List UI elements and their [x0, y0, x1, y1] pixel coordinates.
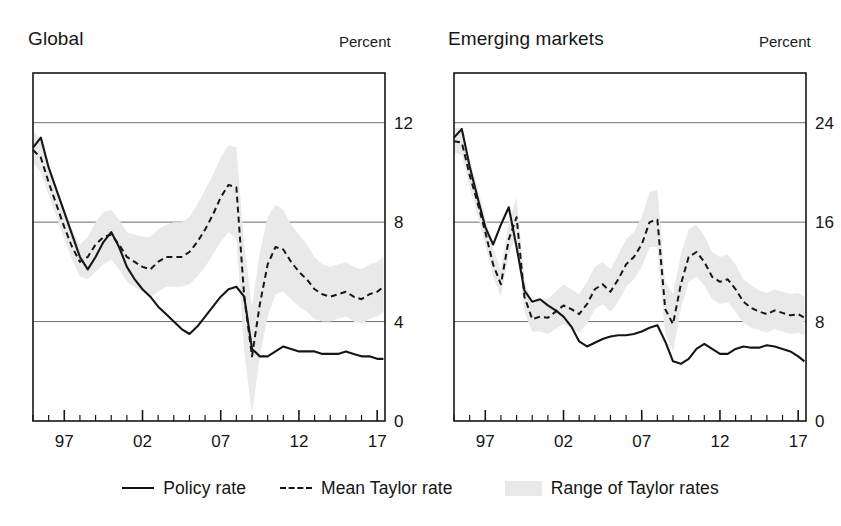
- x-tick-label: 97: [55, 432, 74, 451]
- y-tick-label: 12: [394, 114, 413, 133]
- y-tick-label: 0: [815, 412, 824, 431]
- x-axis-labels: 9702071217: [55, 432, 387, 451]
- legend-row: Policy rateMean Taylor rateRange of Tayl…: [0, 468, 841, 508]
- dashed-line-icon: [280, 487, 312, 489]
- x-tick-label: 12: [710, 432, 729, 451]
- chart-panel-global: Global Percent 048129702071217: [0, 0, 420, 455]
- x-tick-label: 02: [133, 432, 152, 451]
- legend-label: Policy rate: [163, 478, 246, 499]
- y-tick-label: 4: [394, 313, 403, 332]
- x-tick-label: 07: [211, 432, 230, 451]
- x-tick-label: 17: [789, 432, 808, 451]
- plot-area-emerging-markets: 0816249702071217: [421, 0, 841, 455]
- legend-item-policy-rate: Policy rate: [122, 478, 246, 499]
- range-band-emerging-markets: [454, 128, 804, 352]
- solid-line-icon: [122, 487, 154, 489]
- x-tick-label: 02: [554, 432, 573, 451]
- legend-item-mean-taylor-rate: Mean Taylor rate: [280, 478, 453, 499]
- shaded-band-icon: [505, 481, 542, 496]
- y-tick-label: 24: [815, 114, 834, 133]
- x-tick-label: 07: [632, 432, 651, 451]
- y-tick-label: 8: [815, 313, 824, 332]
- legend-label: Range of Taylor rates: [551, 478, 719, 499]
- x-axis-labels: 9702071217: [476, 432, 808, 451]
- x-tick-label: 12: [289, 432, 308, 451]
- legend-item-range-taylor-rates: Range of Taylor rates: [505, 478, 719, 499]
- x-tick-label: 97: [476, 432, 495, 451]
- y-tick-label: 16: [815, 213, 834, 232]
- chart-panel-emerging-markets: Emerging markets Percent 081624970207121…: [421, 0, 841, 455]
- y-tick-label: 0: [394, 412, 403, 431]
- legend-label: Mean Taylor rate: [321, 478, 453, 499]
- range-band-global: [33, 130, 383, 413]
- x-axis-ticks: [33, 410, 377, 421]
- y-tick-label: 8: [394, 213, 403, 232]
- taylor-rate-figure: Global Percent 048129702071217 Emerging …: [0, 0, 841, 526]
- plot-area-global: 048129702071217: [0, 0, 420, 455]
- figure-legend: Policy rateMean Taylor rateRange of Tayl…: [0, 460, 841, 526]
- y-axis-labels: 081624: [815, 114, 834, 431]
- x-tick-label: 17: [368, 432, 387, 451]
- x-axis-ticks: [454, 410, 798, 421]
- y-axis-labels: 04812: [394, 114, 413, 431]
